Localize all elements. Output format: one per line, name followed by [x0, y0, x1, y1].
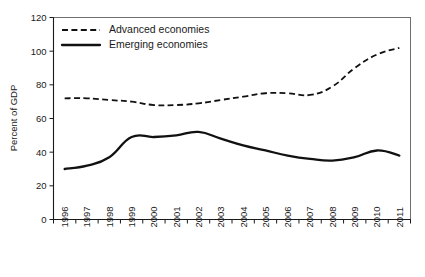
chart-axes: [54, 18, 411, 220]
legend-label: Emerging economies: [109, 38, 208, 50]
chart-container: Percent of GDP 020406080100120 199619971…: [0, 0, 425, 277]
x-axis-ticks: 1996199719981999200020012002200320042005…: [54, 206, 411, 227]
x-tick-label: 2010: [371, 206, 382, 227]
series-line-advanced: [65, 48, 400, 106]
legend-label: Advanced economies: [109, 23, 209, 35]
data-series-group: [65, 48, 400, 169]
x-tick-label: 1996: [59, 206, 70, 227]
x-tick-label: 2005: [260, 206, 271, 227]
y-tick-label: 80: [36, 79, 47, 90]
x-tick-label: 2007: [304, 206, 315, 227]
x-tick-label: 2009: [349, 206, 360, 227]
y-axis-ticks: 020406080100120: [31, 12, 54, 225]
x-tick-label: 1997: [81, 206, 92, 227]
line-chart: Percent of GDP 020406080100120 199619971…: [0, 0, 425, 277]
x-tick-label: 2001: [171, 206, 182, 227]
y-tick-label: 20: [36, 180, 47, 191]
x-tick-label: 2008: [327, 206, 338, 227]
plot-frame: [54, 18, 411, 220]
x-tick-label: 2004: [238, 206, 249, 227]
y-tick-label: 0: [41, 214, 46, 225]
x-tick-label: 2000: [148, 206, 159, 227]
chart-legend: Advanced economiesEmerging economies: [62, 23, 209, 50]
y-axis-title: Percent of GDP: [8, 85, 19, 152]
y-tick-label: 120: [31, 12, 47, 23]
series-line-emerging: [65, 132, 400, 169]
y-tick-label: 60: [36, 113, 47, 124]
y-tick-label: 40: [36, 147, 47, 158]
x-tick-label: 2006: [282, 206, 293, 227]
x-tick-label: 1998: [104, 206, 115, 227]
x-tick-label: 2002: [193, 206, 204, 227]
x-tick-label: 2011: [394, 207, 405, 227]
x-tick-label: 2003: [215, 206, 226, 227]
x-tick-label: 1999: [126, 206, 137, 227]
y-tick-label: 100: [31, 46, 47, 57]
